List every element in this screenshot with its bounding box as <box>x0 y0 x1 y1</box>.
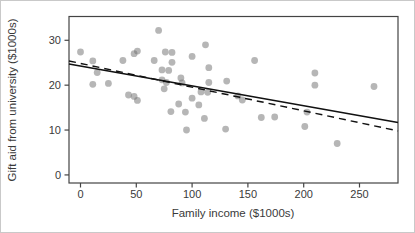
scatter-point <box>251 57 258 64</box>
scatter-point <box>159 67 166 74</box>
scatter-point <box>301 123 308 130</box>
scatter-point <box>151 57 158 64</box>
y-tick-label: 30 <box>49 34 61 46</box>
scatter-point <box>89 81 96 88</box>
scatter-point <box>182 109 189 116</box>
scatter-point <box>371 83 378 90</box>
y-tick-label: 20 <box>49 79 61 91</box>
scatter-point <box>161 85 168 92</box>
x-tick-label: 250 <box>350 188 368 200</box>
scatter-point <box>205 64 212 71</box>
scatter-point <box>168 108 175 115</box>
least-squares-line <box>69 64 398 122</box>
y-tick-label: 10 <box>49 124 61 136</box>
scatter-point <box>165 67 172 74</box>
scatter-point <box>134 48 141 55</box>
scatter-points <box>77 27 377 147</box>
scatter-point <box>223 78 230 85</box>
scatter-point <box>258 114 265 121</box>
scatter-point <box>175 101 182 108</box>
scatter-point <box>222 126 229 133</box>
scatter-point <box>202 41 209 48</box>
scatter-point <box>195 102 202 109</box>
scatter-point <box>189 95 196 102</box>
scatter-point <box>162 49 169 56</box>
scatter-point <box>77 49 84 56</box>
scatter-point <box>89 58 96 65</box>
scatter-point <box>120 57 127 64</box>
scatter-point <box>183 127 190 134</box>
scatter-point <box>201 115 208 122</box>
scatter-point <box>169 59 176 66</box>
x-tick-label: 100 <box>183 188 201 200</box>
axis-ticks <box>65 40 360 187</box>
scatter-point <box>204 89 211 96</box>
plot-frame <box>69 17 398 184</box>
scatter-point <box>134 97 141 104</box>
scatter-point <box>155 27 162 34</box>
scatter-point <box>312 70 319 77</box>
scatter-point <box>312 82 319 89</box>
x-axis-label: Family income ($1000s) <box>172 207 295 219</box>
scatter-point <box>189 53 196 60</box>
scatter-point <box>169 49 176 56</box>
scatter-point <box>334 140 341 147</box>
y-axis-label: Gift aid from university ($1000s) <box>6 18 18 181</box>
x-tick-label: 50 <box>130 188 142 200</box>
y-tick-label: 0 <box>55 169 61 181</box>
scatter-point <box>105 80 112 87</box>
scatter-point <box>205 79 212 86</box>
x-tick-label: 150 <box>239 188 257 200</box>
x-tick-label: 0 <box>77 188 83 200</box>
scatter-point <box>271 114 278 121</box>
alternative-fit-line <box>69 61 398 131</box>
chart-container: 0501001502002500102030 Family income ($1… <box>0 0 415 233</box>
x-tick-label: 200 <box>295 188 313 200</box>
scatter-plot: 0501001502002500102030 Family income ($1… <box>1 1 414 232</box>
fit-lines <box>69 61 398 131</box>
axis-tick-labels: 0501001502002500102030 <box>49 34 369 200</box>
